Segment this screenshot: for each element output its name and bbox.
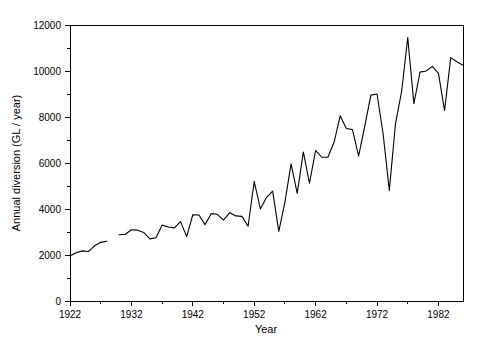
- x-axis: 1922193219421952196219721982: [59, 301, 450, 320]
- y-tick-label: 8000: [39, 112, 62, 123]
- x-tick-label: 1982: [427, 309, 450, 320]
- x-tick-label: 1962: [305, 309, 328, 320]
- y-tick-label: 0: [55, 296, 61, 307]
- x-tick-label: 1942: [182, 309, 205, 320]
- x-tick-label: 1932: [120, 309, 143, 320]
- y-tick-label: 12000: [33, 20, 61, 31]
- x-tick-label: 1952: [243, 309, 266, 320]
- data-series-annual-diversion: [70, 38, 463, 256]
- y-axis: 020004000600080001000012000: [33, 20, 70, 307]
- y-tick-label: 10000: [33, 66, 61, 77]
- y-tick-label: 4000: [39, 204, 62, 215]
- y-axis-title: Annual diversion (GL / year): [10, 95, 22, 232]
- data-line-segment: [119, 38, 463, 239]
- x-axis-title: Year: [255, 323, 278, 335]
- y-tick-label: 6000: [39, 158, 62, 169]
- data-line-segment: [70, 241, 107, 256]
- chart-container: 020004000600080001000012000 192219321942…: [0, 0, 482, 340]
- y-tick-label: 2000: [39, 250, 62, 261]
- x-tick-label: 1922: [59, 309, 82, 320]
- line-chart: 020004000600080001000012000 192219321942…: [0, 0, 482, 340]
- x-tick-label: 1972: [366, 309, 389, 320]
